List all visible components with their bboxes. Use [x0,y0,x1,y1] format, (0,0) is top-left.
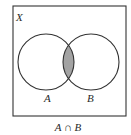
diagram-caption: A ∩ B [54,121,82,133]
venn-diagram: X A B A ∩ B [0,0,131,135]
set-b-label: B [87,92,94,104]
universe-label: X [15,11,24,23]
set-a-label: A [43,92,51,104]
